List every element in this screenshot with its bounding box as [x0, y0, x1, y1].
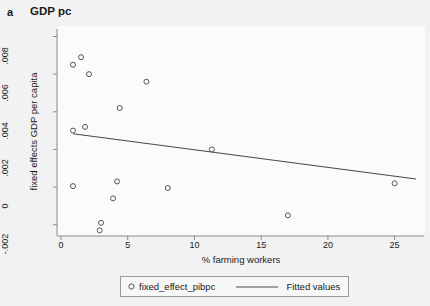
- plot-background: [57, 26, 425, 236]
- x-axis-label: % farming workers: [57, 254, 425, 265]
- chart-legend: fixed_effect_pibpc Fitted values: [120, 276, 349, 297]
- legend-label-line: Fitted values: [286, 281, 340, 292]
- legend-entry-scatter[interactable]: fixed_effect_pibpc: [121, 277, 215, 296]
- chart-figure: a GDP pc fixed effects GDP per capita -.…: [0, 0, 430, 306]
- legend-label-scatter: fixed_effect_pibpc: [139, 281, 215, 292]
- line-swatch-icon: [235, 284, 279, 290]
- legend-entry-line[interactable]: Fitted values: [215, 277, 340, 296]
- open-circle-icon: [124, 282, 138, 291]
